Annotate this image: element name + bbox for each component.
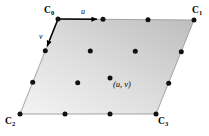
lattice-point — [56, 17, 61, 22]
corner-label-c3: C3 — [158, 117, 168, 127]
corner-label-c0-sub: 0 — [51, 9, 54, 16]
lattice-point — [192, 18, 197, 23]
corner-label-c2: C2 — [5, 117, 15, 127]
corner-label-c0-base: C — [44, 5, 51, 15]
lattice-point — [179, 49, 184, 54]
lattice-point — [166, 81, 171, 86]
corner-label-c2-base: C — [5, 116, 12, 126]
vector-label-v: v — [39, 33, 43, 41]
corner-label-c2-sub: 2 — [12, 120, 15, 127]
lattice-point — [133, 49, 138, 54]
corner-label-c3-sub: 3 — [165, 120, 168, 127]
corner-label-c1: C1 — [192, 6, 202, 16]
lattice-point — [30, 80, 35, 85]
lattice-point — [108, 76, 113, 81]
lattice-point — [88, 49, 93, 54]
parallelogram-patch — [20, 19, 194, 114]
lattice-point — [43, 48, 48, 53]
lattice-point — [108, 112, 113, 117]
parallelogram-lattice-figure: C0 C1 C2 C3 u v (u, v) — [0, 0, 209, 136]
lattice-point — [146, 17, 151, 22]
corner-label-c3-base: C — [158, 116, 165, 126]
lattice-point — [101, 17, 106, 22]
lattice-point — [75, 80, 80, 85]
uv-point-label: (u, v) — [113, 80, 131, 89]
lattice-point — [18, 112, 23, 117]
corner-label-c1-sub: 1 — [199, 9, 202, 16]
lattice-point — [63, 112, 68, 117]
corner-label-c1-base: C — [192, 5, 199, 15]
corner-label-c0: C0 — [44, 6, 54, 16]
figure-canvas — [0, 0, 209, 136]
vector-label-u: u — [81, 8, 85, 16]
